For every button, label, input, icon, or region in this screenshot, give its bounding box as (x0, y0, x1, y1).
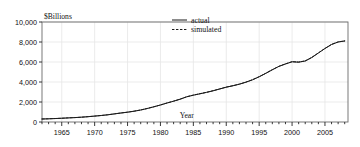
x-axis-tick-label: 1990 (218, 128, 234, 137)
y-axis-tick-label: 8,000 (19, 38, 37, 47)
legend-label-simulated: simulated (191, 25, 221, 34)
x-axis-tick-label: 1985 (185, 128, 201, 137)
x-axis-tick-label: 2000 (284, 128, 300, 137)
x-axis-tick-label: 1980 (152, 128, 168, 137)
legend-label-actual: actual (191, 16, 210, 25)
chart-container: 02,0004,0006,0008,00010,0001965197019751… (0, 0, 360, 147)
y-axis-tick-label: 6,000 (19, 58, 37, 67)
line-chart: 02,0004,0006,0008,00010,0001965197019751… (0, 0, 360, 147)
y-axis-tick-label: 10,000 (15, 18, 37, 27)
x-axis-tick-label: 1975 (120, 128, 136, 137)
y-axis-title: $Billions (44, 12, 72, 21)
x-axis-tick-label: 1995 (251, 128, 267, 137)
x-axis-tick-label: 1970 (87, 128, 103, 137)
x-axis-tick-label: 2005 (317, 128, 333, 137)
x-axis-tick-label: 1965 (54, 128, 70, 137)
y-axis-tick-label: 0 (33, 118, 37, 127)
y-axis-tick-label: 4,000 (19, 78, 37, 87)
x-axis-title: Year (180, 111, 194, 120)
y-axis-tick-label: 2,000 (19, 98, 37, 107)
